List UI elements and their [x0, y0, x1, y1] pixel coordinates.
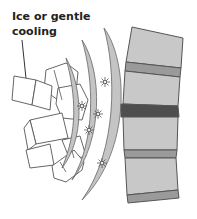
- vertebra: [123, 117, 178, 150]
- sparkle-icon: [97, 158, 107, 168]
- sparkle-icon: [93, 109, 103, 119]
- sparkle-icon: [100, 77, 110, 87]
- vertebra: [126, 27, 183, 68]
- sparkle-icon: [84, 125, 94, 135]
- vertebra: [125, 158, 178, 195]
- disc: [124, 150, 177, 158]
- cooling-illustration: [0, 0, 197, 219]
- ice-cube: [32, 80, 52, 110]
- injured-disc: [121, 104, 179, 117]
- spine-segment: [121, 27, 183, 203]
- vertebra: [123, 71, 180, 106]
- sparkle-icon: [77, 101, 87, 111]
- ice-cube: [30, 113, 68, 144]
